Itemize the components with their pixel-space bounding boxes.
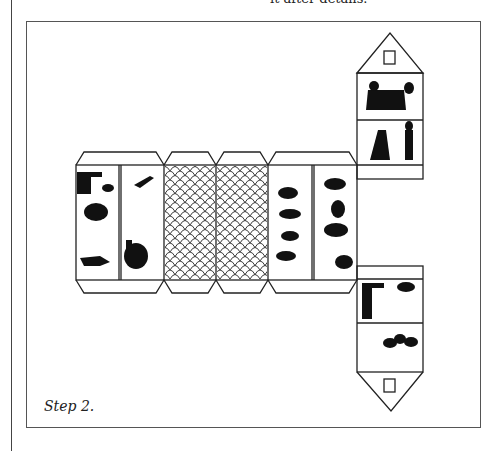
house-template-figure [0, 0, 502, 451]
figure-caption: Step 2. [44, 398, 94, 414]
